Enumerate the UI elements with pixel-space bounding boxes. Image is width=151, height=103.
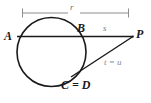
point-markers <box>132 36 134 38</box>
label-point-a: A <box>4 30 12 42</box>
label-segment-s: s <box>103 24 107 33</box>
label-point-cd: C = D <box>61 79 91 91</box>
point-marker-P <box>132 36 134 38</box>
tangent-line-CDP <box>71 37 133 78</box>
label-point-p: P <box>136 28 143 40</box>
geometry-figure: A B P C = D s t = u r <box>0 0 151 103</box>
circle-shape <box>17 18 86 87</box>
label-segment-tu: t = u <box>104 58 122 67</box>
label-dimension-r: r <box>70 3 74 12</box>
label-point-b: B <box>77 22 85 34</box>
dimension-bar-r <box>23 9 129 18</box>
